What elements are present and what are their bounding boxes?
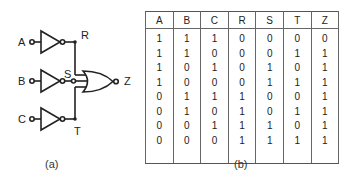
- table-cell: 0: [283, 90, 311, 105]
- junction-r: [73, 40, 77, 44]
- table-cell: 0: [256, 47, 284, 62]
- header-s: S: [256, 12, 284, 29]
- table-cell: 0: [201, 105, 229, 120]
- table-cell: 1: [283, 47, 311, 62]
- table-cell: 0: [146, 119, 174, 134]
- header-z: Z: [311, 12, 339, 29]
- output-label-z: Z: [124, 76, 131, 87]
- input-terminal-c: [30, 117, 34, 121]
- table-cell: 1: [228, 105, 256, 120]
- table-cell: 1: [311, 90, 339, 105]
- table-cell: 1: [311, 105, 339, 120]
- table-cell: 1: [228, 90, 256, 105]
- input-label-b: B: [18, 76, 25, 87]
- table-cell: 1: [283, 105, 311, 120]
- table-cell: 0: [146, 105, 174, 120]
- table-cell: 0: [228, 76, 256, 91]
- table-row: 1000111: [146, 76, 339, 91]
- node-label-s: S: [64, 69, 71, 80]
- table-cell: 1: [146, 76, 174, 91]
- table-cell: 1: [283, 134, 311, 164]
- table-cell: 0: [173, 61, 201, 76]
- table-cell: 0: [201, 134, 229, 164]
- header-t: T: [283, 12, 311, 29]
- table-cell: 0: [283, 119, 311, 134]
- table-cell: 0: [228, 61, 256, 76]
- table-cell: 0: [256, 29, 284, 47]
- inversion-bubble-a: [60, 40, 64, 44]
- not-gate-a: [41, 31, 60, 53]
- table-cell: 1: [173, 47, 201, 62]
- header-r: R: [228, 12, 256, 29]
- table-cell: 1: [201, 61, 229, 76]
- header-a: A: [146, 12, 174, 29]
- table-row: 0011101: [146, 119, 339, 134]
- table-cell: 0: [173, 134, 201, 164]
- table-cell: 1: [256, 76, 284, 91]
- table-row: 1100011: [146, 47, 339, 62]
- not-gate-c: [41, 108, 60, 130]
- truth-table: A B C R S T Z 11100001100011101010110001…: [145, 11, 339, 164]
- table-row: 1110000: [146, 29, 339, 47]
- table-cell: 0: [283, 61, 311, 76]
- table-cell: 1: [311, 119, 339, 134]
- table-cell: 0: [173, 76, 201, 91]
- input-terminal-a: [30, 40, 34, 44]
- table-cell: 0: [173, 119, 201, 134]
- table-cell: 1: [311, 61, 339, 76]
- table-cell: 0: [256, 90, 284, 105]
- table-cell: 1: [146, 29, 174, 47]
- node-label-t: T: [74, 126, 81, 137]
- not-gate-b: [41, 70, 60, 92]
- caption-b: (b): [234, 158, 247, 170]
- table-header-row: A B C R S T Z: [146, 12, 339, 29]
- table-cell: 1: [173, 90, 201, 105]
- table-cell: 0: [228, 29, 256, 47]
- header-b: B: [173, 12, 201, 29]
- table-cell: 0: [256, 105, 284, 120]
- table-cell: 1: [201, 119, 229, 134]
- table-cell: 0: [283, 29, 311, 47]
- table-cell: 1: [311, 47, 339, 62]
- table-cell: 0: [146, 90, 174, 105]
- table-cell: 1: [311, 76, 339, 91]
- table-cell: 1: [201, 90, 229, 105]
- table-row: 1010101: [146, 61, 339, 76]
- table-cell: 1: [256, 61, 284, 76]
- header-c: C: [201, 12, 229, 29]
- table-row: 0111001: [146, 90, 339, 105]
- table-cell: 1: [173, 105, 201, 120]
- input-label-c: C: [18, 114, 26, 125]
- caption-a: (a): [45, 158, 58, 170]
- input-terminal-b: [30, 79, 34, 83]
- table-row: 0101011: [146, 105, 339, 120]
- table-cell: 0: [201, 47, 229, 62]
- input-label-a: A: [18, 37, 25, 48]
- nor-gate: [83, 71, 113, 92]
- table-cell: 1: [201, 29, 229, 47]
- table-cell: 1: [228, 119, 256, 134]
- table-cell: 1: [146, 47, 174, 62]
- table-cell: 1: [173, 29, 201, 47]
- table-cell: 0: [228, 47, 256, 62]
- table-cell: 1: [311, 134, 339, 164]
- table-cell: 0: [311, 29, 339, 47]
- junction-t: [73, 117, 77, 121]
- logic-circuit: [0, 0, 145, 178]
- table-cell: 0: [146, 134, 174, 164]
- table-cell: 1: [283, 76, 311, 91]
- table-cell: 1: [256, 134, 284, 164]
- inversion-bubble-c: [60, 117, 64, 121]
- table-cell: 1: [256, 119, 284, 134]
- table-cell: 1: [146, 61, 174, 76]
- nor-output-bubble: [114, 79, 119, 84]
- table-cell: 0: [201, 76, 229, 91]
- node-label-r: R: [81, 30, 89, 41]
